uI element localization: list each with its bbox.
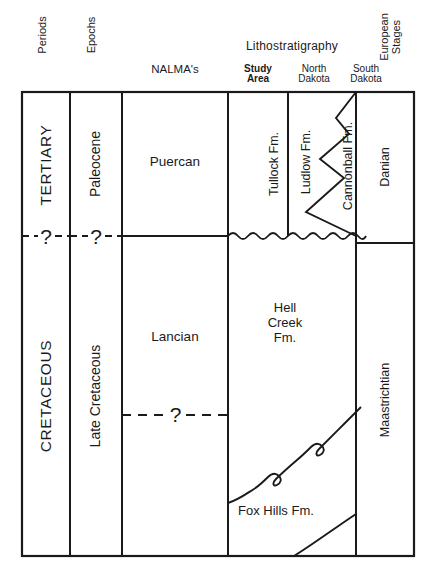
query-marker-epochs: ? bbox=[86, 224, 106, 250]
cell-nalma-puercan: Puercan bbox=[122, 152, 228, 172]
hell-creek-line-3: Fm. bbox=[250, 330, 320, 345]
contact-foxhills-lower bbox=[294, 514, 356, 556]
header-periods: Periods bbox=[29, 2, 55, 68]
stratigraphic-chart: Periods Epochs NALMA's Lithostratigraphy… bbox=[0, 0, 436, 581]
cell-formation-cannonball: Cannonball Fm. bbox=[336, 94, 360, 238]
cell-epoch-late-cretaceous: Late Cretaceous bbox=[83, 322, 109, 470]
cell-formation-tullock: Tullock Fm. bbox=[262, 103, 286, 225]
header-nalmas: NALMA's bbox=[122, 60, 228, 78]
cell-formation-fox-hills: Fox Hills Fm. bbox=[238, 504, 358, 519]
header-north-dakota: North Dakota bbox=[286, 60, 342, 88]
query-marker-nalma: ? bbox=[165, 402, 186, 428]
cell-nalma-lancian: Lancian bbox=[122, 327, 228, 347]
cell-period-tertiary: TERTIARY bbox=[33, 108, 59, 222]
header-study-area: Study Area bbox=[228, 60, 288, 88]
header-lithostratigraphy: Lithostratigraphy bbox=[228, 38, 356, 56]
cell-period-cretaceous: CRETACEOUS bbox=[33, 313, 59, 479]
cell-formation-hell-creek: Hell Creek Fm. bbox=[250, 300, 320, 345]
header-european-stages: European Stages bbox=[373, 0, 407, 75]
contact-hellcreek-foxhills bbox=[228, 407, 361, 503]
cell-stage-danian: Danian bbox=[373, 138, 397, 196]
cell-stage-maastrichtian: Maastrichtian bbox=[373, 355, 397, 445]
hell-creek-line-2: Creek bbox=[250, 315, 320, 330]
hell-creek-line-1: Hell bbox=[250, 300, 320, 315]
header-epochs: Epochs bbox=[78, 2, 104, 68]
cell-formation-ludlow: Ludlow Fm. bbox=[294, 107, 318, 217]
query-marker-periods: ? bbox=[36, 224, 56, 250]
cell-epoch-paleocene: Paleocene bbox=[83, 108, 109, 220]
